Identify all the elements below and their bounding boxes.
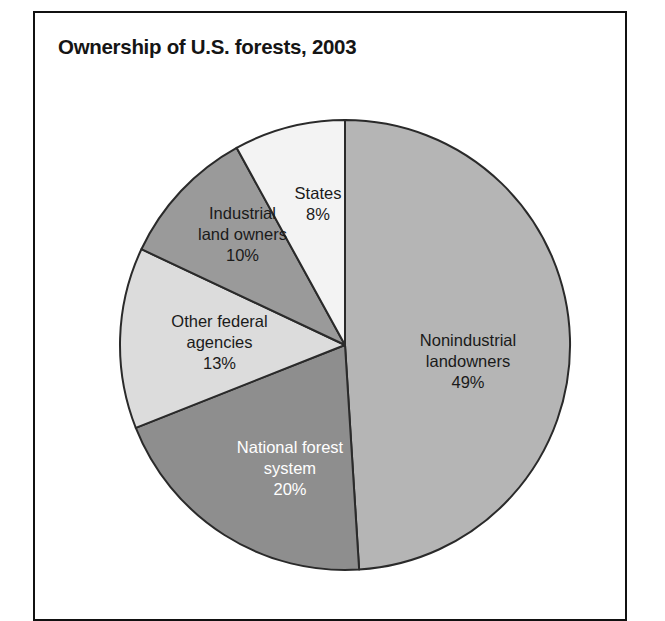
page-title: Ownership of U.S. forests, 2003 — [58, 35, 356, 59]
figure-frame: Ownership of U.S. forests, 2003 — [33, 11, 627, 621]
